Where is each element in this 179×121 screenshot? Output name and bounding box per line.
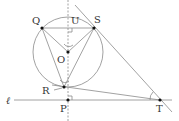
label-R: R [42, 85, 50, 96]
label-P: P [60, 103, 67, 114]
label-S: S [94, 14, 101, 25]
tangent-line-ST [75, 5, 172, 112]
label-line-l: ℓ [6, 95, 10, 106]
point-Q [40, 26, 43, 29]
label-T: T [156, 103, 163, 114]
point-S [92, 26, 95, 29]
R-leader [54, 88, 62, 90]
segment-QO [42, 28, 68, 52]
point-P [66, 98, 69, 101]
diagram-canvas: Q U S O R P T ℓ [0, 0, 179, 121]
point-O [66, 50, 69, 53]
right-angle-U [68, 28, 72, 32]
point-R [62, 85, 65, 88]
label-U: U [71, 15, 79, 26]
geometry-diagram: Q U S O R P T ℓ [0, 0, 179, 121]
point-T [158, 98, 161, 101]
segment-SR [64, 28, 94, 87]
angle-arc-O [64, 44, 73, 47]
label-Q: Q [32, 15, 40, 26]
label-O: O [57, 54, 65, 65]
